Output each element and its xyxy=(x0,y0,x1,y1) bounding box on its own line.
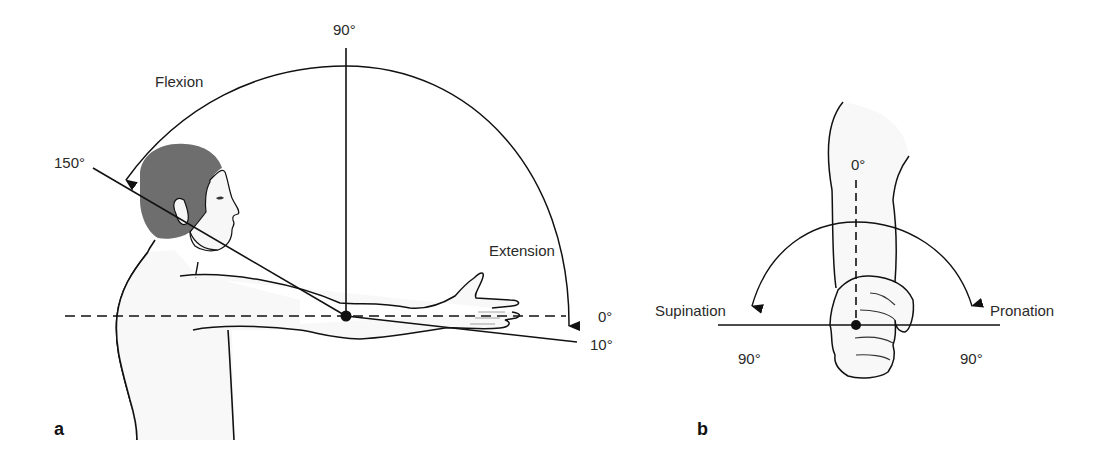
label-extension: Extension xyxy=(489,243,555,258)
forearm-fill xyxy=(828,102,909,285)
label-90-degrees: 90° xyxy=(333,22,356,37)
label-flexion: Flexion xyxy=(155,74,203,89)
label-90-degrees-supination: 90° xyxy=(738,351,761,366)
panel-b-illustration xyxy=(718,102,1000,378)
panel-b-letter: b xyxy=(697,420,708,438)
label-0-degrees: 0° xyxy=(598,309,612,324)
fist-outline xyxy=(830,276,913,378)
label-supination: Supination xyxy=(655,303,726,318)
label-0-degrees-forearm: 0° xyxy=(851,157,865,172)
neck-outline xyxy=(148,240,155,252)
forearm-pivot-dot xyxy=(851,320,861,330)
label-pronation: Pronation xyxy=(990,303,1054,318)
label-90-degrees-pronation: 90° xyxy=(960,351,983,366)
label-10-degrees: 10° xyxy=(590,337,613,352)
figure-canvas xyxy=(0,0,1112,457)
label-150-degrees: 150° xyxy=(54,155,85,170)
panel-a-letter: a xyxy=(54,420,64,438)
shoulder-pivot-dot xyxy=(341,311,352,322)
extension-arc-arrow xyxy=(346,66,569,326)
